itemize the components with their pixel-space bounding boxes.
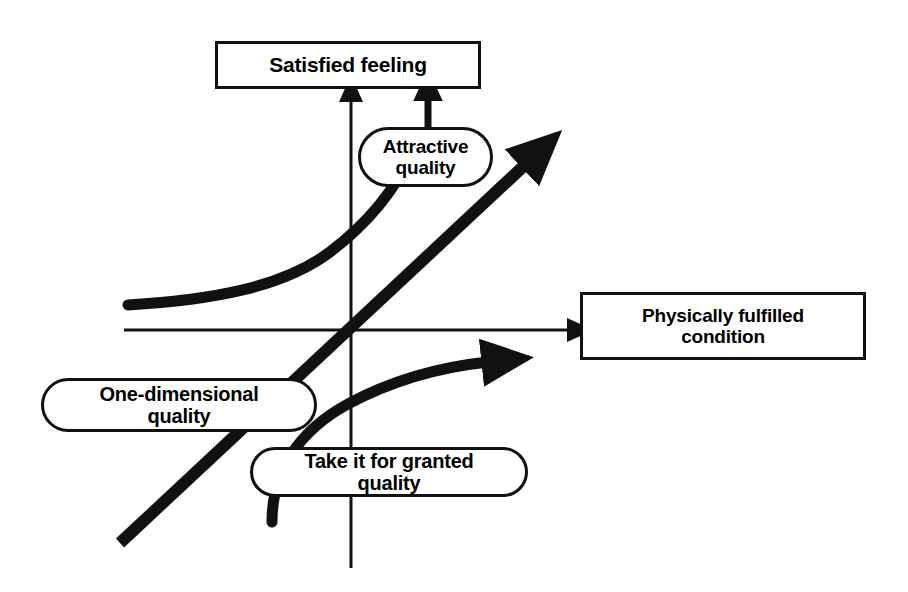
take-it-for-granted-curve bbox=[272, 362, 488, 522]
one-dimensional-quality-line bbox=[120, 162, 528, 543]
attractive-quality-curve bbox=[128, 152, 412, 305]
diagram-canvas bbox=[0, 0, 908, 592]
kano-model-diagram: Satisfied feeling Physically fulfilled c… bbox=[0, 0, 908, 592]
